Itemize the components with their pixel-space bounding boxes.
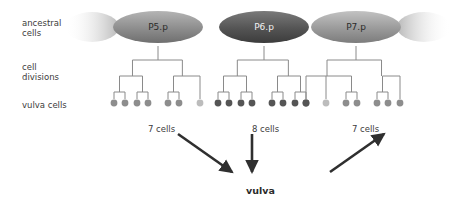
- cell-count-label-lineage-p6p: 8 cells: [252, 124, 279, 134]
- vulva-cell-dot[interactable]: [292, 100, 299, 107]
- vulva-cell-dot[interactable]: [134, 100, 141, 107]
- row-label-ancestral-cells: ancestral cells: [22, 18, 61, 38]
- cell-count-label-lineage-p7p: 7 cells: [352, 124, 379, 134]
- cell-count-label-lineage-p5p: 7 cells: [148, 124, 175, 134]
- row-label-vulva-cells: vulva cells: [22, 100, 67, 110]
- vulva-cell-dot[interactable]: [197, 100, 204, 107]
- precursor-label-p6p: P6.p: [254, 22, 274, 32]
- vulva-cell-dot[interactable]: [323, 100, 330, 107]
- vulva-cell-dot[interactable]: [397, 100, 404, 107]
- vulva-cell-dot[interactable]: [249, 100, 256, 107]
- vulva-cell-dot[interactable]: [303, 100, 310, 107]
- row-label-cell-divisions: cell divisions: [22, 62, 59, 82]
- vulva-outcome-label: vulva: [246, 185, 275, 196]
- vulva-cell-dot[interactable]: [165, 100, 172, 107]
- lineage-diagram: P5.pP6.pP7.p ancestral cellscell divisio…: [0, 0, 454, 203]
- vulva-cell-dot[interactable]: [343, 100, 350, 107]
- vulva-cell-dot[interactable]: [238, 100, 245, 107]
- precursor-label-p5p: P5.p: [148, 22, 168, 32]
- vulva-cell-dot[interactable]: [385, 100, 392, 107]
- vulva-cell-dot[interactable]: [176, 100, 183, 107]
- vulva-cell-dot[interactable]: [111, 100, 118, 107]
- vulva-cell-dot[interactable]: [280, 100, 287, 107]
- faded-ellipse-left: [65, 12, 119, 42]
- vulva-cell-dot[interactable]: [226, 100, 233, 107]
- vulva-cell-dot[interactable]: [269, 100, 276, 107]
- arrow-left: [178, 134, 232, 172]
- diagram-canvas: P5.pP6.pP7.p: [0, 0, 454, 203]
- vulva-cell-dot[interactable]: [354, 100, 361, 107]
- vulva-cell-dot[interactable]: [215, 100, 222, 107]
- vulva-cell-dot[interactable]: [145, 100, 152, 107]
- precursor-label-p7p: P7.p: [346, 22, 366, 32]
- arrow-right: [330, 134, 384, 172]
- vulva-cell-dot[interactable]: [122, 100, 129, 107]
- vulva-cell-dot[interactable]: [374, 100, 381, 107]
- faded-ellipse-right: [397, 12, 451, 42]
